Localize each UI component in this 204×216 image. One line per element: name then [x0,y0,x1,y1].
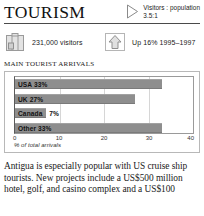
stat-growth: Up 16% 1995–1997 [104,31,200,53]
header-divider [4,23,200,24]
chart-bars-container: USA 33%UK 27%Canada7%Other 33% [14,76,194,134]
chart-bar-row: UK 27% [15,94,193,104]
chart-bar: Canada [15,108,46,118]
chart-bar-row: Other 33% [15,123,193,133]
body-paragraph: Antigua is especially popular with US cr… [4,161,200,196]
stat-visitors-label: 231,000 visitors [32,39,83,46]
chart-x-tick-label: 0 [13,134,16,143]
chart-bar: USA 33% [15,79,162,89]
chart-bar-row: Canada7% [15,108,193,118]
chart-bar-value: 7% [49,110,59,117]
stat-visitors: 231,000 visitors [4,31,104,53]
chart-x-axis: 010203040 [14,134,194,143]
chart-bar-label: USA 33% [18,81,47,88]
chart-x-tick-label: 40 [187,134,194,143]
stat-growth-label: Up 16% 1995–1997 [132,39,196,46]
chart-bar-label: UK 27% [18,95,43,102]
chart-plot-area: USA 33%UK 27%Canada7%Other 33% [10,76,194,134]
chart-bar-label: Canada [18,110,42,117]
chart-bar-row: USA 33% [15,79,193,89]
visitor-ratio-label: Visitors : population [143,4,200,12]
tourism-fact-panel: TOURISM Visitors : population 3.5:1 [0,0,204,216]
visitor-ratio-group: Visitors : population 3.5:1 [126,2,200,20]
panel-header: TOURISM Visitors : population 3.5:1 [4,0,200,22]
page-title: TOURISM [4,2,85,22]
chart-section-title: MAIN TOURIST ARRIVALS [4,60,200,68]
chart-x-tick-label: 30 [146,134,153,143]
up-arrow-icon [104,31,126,53]
chart-bar: UK 27% [15,94,135,104]
tourist-arrivals-chart: USA 33%UK 27%Canada7%Other 33% 010203040… [4,71,200,153]
visitor-ratio-value: 3.5:1 [143,12,200,20]
suitcase-icon [4,31,26,53]
stats-row: 231,000 visitors Up 16% 1995–1997 [4,31,200,53]
triangle-right-icon [126,4,139,19]
chart-x-tick-label: 20 [101,134,108,143]
chart-bar: Other 33% [15,123,162,133]
chart-bar-label: Other 33% [18,124,52,131]
chart-x-tick-label: 10 [56,134,63,143]
visitor-ratio-text: Visitors : population 3.5:1 [143,3,200,20]
